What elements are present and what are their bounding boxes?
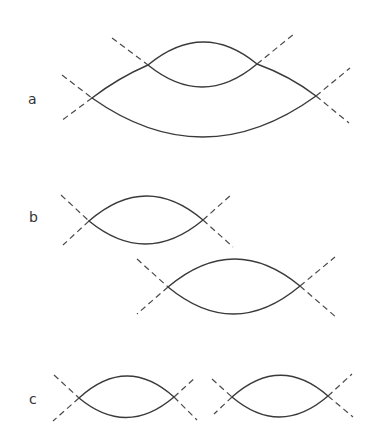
dashed-line	[63, 221, 89, 245]
dashed-line	[61, 195, 89, 221]
dashed-line	[137, 287, 168, 314]
lower-lens-bottom-arc	[168, 286, 300, 314]
dashed-line	[212, 379, 232, 397]
lower-lens-top-arc	[168, 259, 300, 287]
dashed-line	[112, 38, 148, 65]
right-lens-bottom-arc	[232, 396, 328, 417]
outer-lens-top-right-arc	[257, 64, 316, 96]
panel-label-a: a	[28, 91, 37, 107]
panel-c: c	[29, 374, 353, 421]
lens-diagram-figure: a b c	[0, 0, 372, 433]
left-lens-bottom-arc	[79, 397, 174, 418]
dashed-line	[328, 396, 353, 417]
dashed-line	[300, 286, 337, 318]
upper-lens-top-arc	[89, 196, 203, 221]
panel-a: a	[28, 34, 350, 137]
dashed-line	[203, 220, 233, 247]
dashed-line	[203, 194, 232, 220]
upper-lens-bottom-arc	[89, 220, 203, 244]
outer-lens-top-left-arc	[92, 65, 148, 98]
dashed-line	[214, 397, 232, 414]
panel-label-b: b	[29, 209, 38, 225]
dashed-line	[300, 257, 335, 286]
dashed-line	[61, 98, 92, 121]
dashed-line	[316, 68, 350, 96]
panel-label-c: c	[29, 391, 37, 407]
left-lens-top-arc	[79, 376, 174, 398]
dashed-line	[137, 259, 168, 287]
dashed-line	[257, 34, 294, 64]
dashed-line	[316, 96, 349, 123]
outer-lens-bottom-arc	[92, 96, 316, 137]
right-lens-top-arc	[232, 375, 328, 397]
dashed-line	[62, 75, 92, 98]
dashed-line	[53, 398, 79, 421]
dashed-line	[174, 377, 196, 397]
panel-b: b	[29, 194, 337, 318]
dashed-line	[174, 397, 197, 420]
dashed-line	[328, 374, 352, 396]
dashed-line	[54, 375, 79, 398]
inner-lens-top-arc	[148, 42, 257, 65]
inner-lens-bottom-arc	[148, 64, 257, 87]
